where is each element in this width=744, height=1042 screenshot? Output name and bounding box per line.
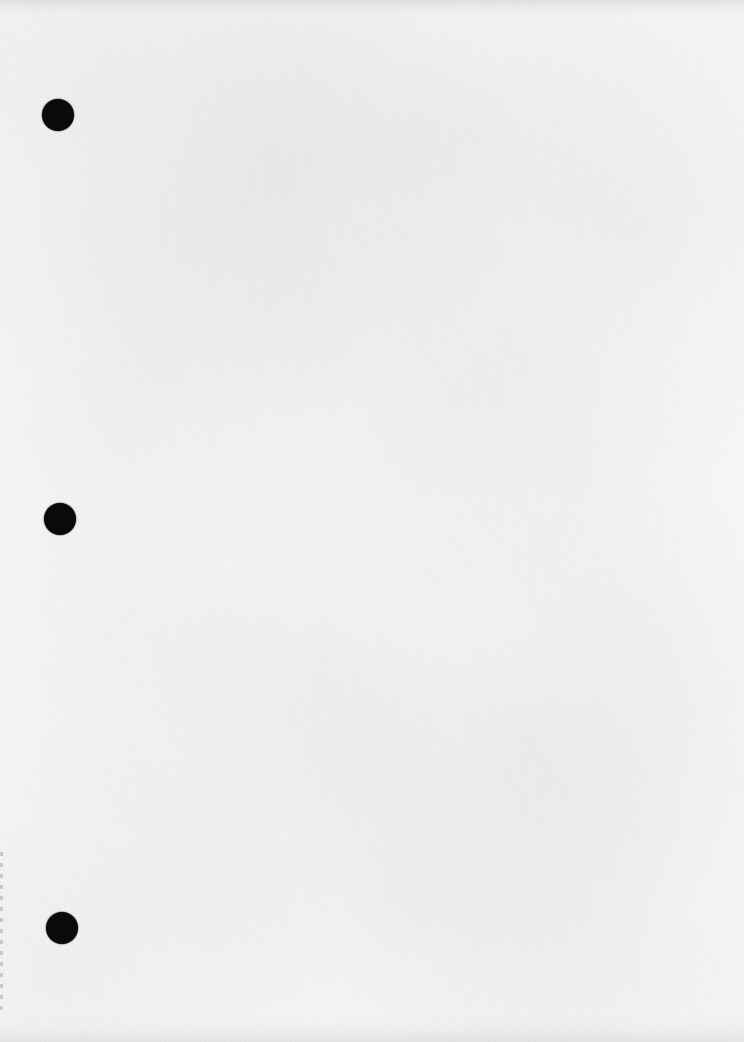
punch-hole-bottom <box>46 912 78 944</box>
page-body-text <box>110 60 670 980</box>
scanned-page <box>0 0 744 1042</box>
left-scan-edge-line <box>0 852 3 1012</box>
punch-hole-middle <box>44 503 76 535</box>
top-edge-shadow <box>0 0 744 16</box>
punch-hole-top <box>42 99 74 131</box>
bottom-edge-shadow <box>0 1016 744 1042</box>
